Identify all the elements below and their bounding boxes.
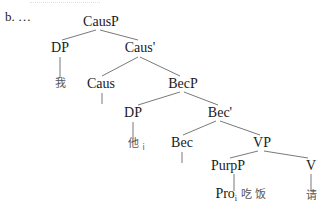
tree-edges: [0, 0, 330, 212]
leaf-pro-index: i: [235, 194, 237, 203]
node-vp: VP: [253, 136, 271, 150]
node-bec-bar: Bec': [208, 106, 232, 120]
node-caus-bar: Caus': [125, 41, 156, 55]
node-purpp: PurpP: [211, 159, 245, 173]
leaf-ta-index: i: [142, 143, 147, 152]
node-becp: BecP: [168, 77, 198, 91]
leaf-wo: 我: [55, 77, 69, 91]
node-dp-object: DP: [124, 106, 142, 120]
leaf-ta-text: 他: [128, 137, 142, 150]
node-caus: Caus: [87, 77, 115, 91]
leaf-chifan: 吃饭: [241, 188, 269, 201]
node-causp: CausP: [83, 15, 119, 29]
leaf-pro-text: Pro: [215, 186, 234, 201]
leaf-ta: 他i: [128, 137, 147, 155]
node-bec: Bec: [171, 136, 193, 150]
leaf-pro-chifan: Proi 吃饭: [215, 187, 268, 206]
leaf-qing: 请: [306, 189, 320, 203]
node-dp-subject: DP: [51, 41, 69, 55]
node-v: V: [306, 159, 316, 173]
